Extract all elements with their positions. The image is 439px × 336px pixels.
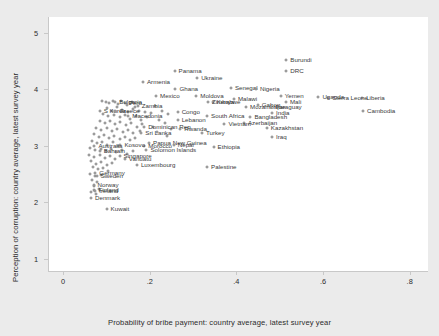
data-point (174, 88, 177, 91)
data-point (229, 87, 232, 90)
x-tick-mark (150, 271, 151, 275)
data-point (270, 106, 273, 109)
data-point-label: Nigeria (260, 86, 280, 92)
data-point (176, 119, 179, 122)
data-point (93, 144, 96, 147)
data-point (141, 81, 144, 84)
x-tick-mark (63, 271, 64, 275)
x-tick-label: 0 (61, 277, 65, 286)
data-point (206, 100, 209, 103)
data-point (179, 127, 182, 130)
data-point (90, 190, 93, 193)
data-point (95, 175, 98, 178)
data-point (110, 130, 113, 133)
data-point (92, 184, 95, 187)
data-point (103, 157, 106, 160)
data-point-label: Congo (182, 109, 200, 115)
scatter-plot-figure: BurundiDRCPanamaUkraineArmeniaSenegalNig… (0, 0, 439, 336)
data-point (109, 120, 112, 123)
x-tick-label: .4 (233, 277, 239, 286)
data-point (206, 166, 209, 169)
data-point (119, 120, 122, 123)
data-point-label: Turkey (206, 130, 225, 136)
y-tick-mark (44, 146, 48, 147)
y-tick-label: 1 (34, 254, 38, 263)
data-point (90, 196, 93, 199)
data-point-label: Zimbabwe (212, 99, 241, 105)
data-point (196, 76, 199, 79)
data-point (113, 134, 116, 137)
x-tick-mark (236, 271, 237, 275)
data-point-label: Ethiopia (218, 144, 240, 150)
data-point-label: Burundi (290, 57, 311, 63)
data-point-label: Liberia (366, 95, 385, 101)
data-point-label: Denmark (95, 195, 120, 201)
data-point (95, 162, 98, 165)
data-point (114, 101, 117, 104)
data-point-label: Kuwait (111, 206, 130, 212)
y-axis-title: Perception of corruption: country averag… (11, 73, 20, 282)
data-point (118, 137, 121, 140)
data-point-label: Macedonia (132, 113, 162, 119)
y-tick-label: 5 (34, 28, 38, 37)
data-point (123, 158, 126, 161)
y-tick-mark (44, 89, 48, 90)
data-point-label: Sri Lanka (145, 130, 171, 136)
data-point (167, 113, 170, 116)
data-point (103, 122, 106, 125)
data-point-label: Ghana (179, 86, 198, 92)
data-point (88, 153, 91, 156)
data-point-label: Armenia (147, 79, 170, 85)
data-point-label: Iraq (276, 134, 287, 140)
data-point (98, 150, 101, 153)
data-point (285, 69, 288, 72)
data-point (317, 95, 320, 98)
data-point (118, 154, 121, 157)
data-point (97, 135, 100, 138)
data-point (124, 124, 127, 127)
data-point (90, 160, 93, 163)
data-point (108, 101, 111, 104)
data-point (108, 136, 111, 139)
data-point (200, 132, 203, 135)
data-point (105, 207, 108, 210)
data-point (362, 109, 365, 112)
data-point-label: Bahrain (104, 148, 125, 154)
data-point (122, 131, 125, 134)
data-point-label: Panama (179, 68, 202, 74)
data-point-label: Sweden (101, 173, 123, 179)
data-point (94, 189, 97, 192)
data-point (114, 158, 117, 161)
data-point (176, 110, 179, 113)
data-point (127, 128, 130, 131)
data-point-label: Ukraine (201, 75, 222, 81)
x-tick-mark (410, 271, 411, 275)
y-tick-mark (44, 259, 48, 260)
data-point (91, 166, 94, 169)
data-point (265, 126, 268, 129)
data-point-label: Kazakhstan (271, 125, 303, 131)
data-point (98, 109, 101, 112)
data-point (92, 133, 95, 136)
x-tick-label: .6 (320, 277, 326, 286)
data-point (271, 136, 274, 139)
data-point (103, 133, 106, 136)
data-point (279, 95, 282, 98)
data-point (132, 132, 135, 135)
data-point (135, 163, 138, 166)
plot-area: BurundiDRCPanamaUkraineArmeniaSenegalNig… (48, 17, 428, 272)
data-point-label: Vietnam (228, 121, 251, 127)
data-point-label: Palestine (211, 164, 236, 170)
data-point (95, 126, 98, 129)
plot-points-layer: BurundiDRCPanamaUkraineArmeniaSenegalNig… (49, 17, 428, 271)
data-point (109, 154, 112, 157)
data-point (110, 161, 113, 164)
y-tick-label: 4 (34, 85, 38, 94)
x-tick-label: .2 (147, 277, 153, 286)
data-point (105, 127, 108, 130)
x-tick-mark (323, 271, 324, 275)
data-point (285, 58, 288, 61)
data-point-label: DRC (290, 68, 303, 74)
data-point (93, 155, 96, 158)
data-point (98, 154, 101, 157)
